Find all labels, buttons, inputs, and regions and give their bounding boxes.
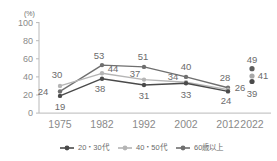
- data-label-20-30-2022: 39: [247, 88, 258, 99]
- y-tick-label-20: 20: [23, 90, 33, 100]
- data-label-60-plus-2022: 49: [247, 54, 258, 65]
- x-tick-label-2002: 2002: [174, 118, 198, 130]
- data-point-60-plus-1975: [58, 89, 62, 93]
- data-label-20-30-1992: 31: [139, 90, 150, 101]
- data-point-20-30-1982: [100, 77, 104, 81]
- data-label-60-plus-2002: 40: [181, 61, 192, 72]
- data-point-20-30-2012: [226, 89, 230, 93]
- data-label-40-50-2022: 41: [258, 70, 269, 81]
- legend-item-60-plus[interactable]: 60歳以上: [176, 142, 224, 152]
- legend-item-40-50[interactable]: 40・50代: [118, 142, 168, 152]
- data-label-40-50-1982: 44: [108, 63, 119, 74]
- data-label-60-plus-2012: 28: [220, 72, 231, 83]
- data-point-40-50-1982: [100, 71, 104, 75]
- x-tick-label-2022: 2022: [240, 118, 264, 130]
- chart-page: (%) 100 80 60 40 20 0 1975 1982 1992 200…: [0, 0, 277, 161]
- data-label-20-30-1982: 38: [95, 83, 106, 94]
- data-label-20-30-2012: 24: [221, 95, 232, 106]
- y-axis-unit-label: (%): [24, 10, 35, 18]
- data-label-60-plus-1982: 53: [94, 50, 105, 61]
- data-point-40-50-1975: [58, 84, 62, 88]
- data-point-20-30-1992: [142, 83, 146, 87]
- y-tick-label-0: 0: [28, 108, 33, 118]
- x-tick-label-1992: 1992: [132, 118, 156, 130]
- legend-marker-40-50: [123, 146, 128, 151]
- data-label-40-50-1992: 37: [130, 68, 141, 79]
- y-tick-label-100: 100: [18, 18, 33, 28]
- legend-item-20-30[interactable]: 20・30代: [60, 142, 110, 152]
- data-label-40-50-2002: 34: [168, 71, 179, 82]
- data-label-20-30-2002: 33: [181, 89, 192, 100]
- legend-marker-20-30: [65, 146, 70, 151]
- data-point-60-plus-2022: [249, 66, 254, 71]
- data-point-60-plus-1992: [142, 65, 146, 69]
- x-tick-label-2012: 2012: [216, 118, 240, 130]
- data-point-20-30-2022: [249, 79, 254, 84]
- y-tick-label-80: 80: [23, 36, 33, 46]
- legend-label-20-30: 20・30代: [78, 142, 110, 152]
- data-point-20-30-1975: [58, 94, 62, 98]
- x-tick-label-1982: 1982: [90, 118, 114, 130]
- chart-legend: 20・30代 40・50代 60歳以上: [60, 142, 224, 152]
- data-label-40-50-2012: 26: [235, 82, 246, 93]
- data-point-40-50-1992: [142, 77, 146, 81]
- data-point-60-plus-2002: [184, 75, 188, 79]
- data-point-60-plus-1982: [100, 63, 104, 67]
- data-label-20-30-1975: 19: [55, 101, 66, 112]
- legend-marker-60-plus: [181, 146, 186, 151]
- legend-label-40-50: 40・50代: [136, 142, 168, 152]
- x-tick-label-1975: 1975: [48, 118, 72, 130]
- data-point-40-50-2022: [249, 73, 254, 78]
- data-point-20-30-2002: [184, 81, 188, 85]
- y-tick-label-60: 60: [23, 54, 33, 64]
- y-tick-label-40: 40: [23, 72, 33, 82]
- data-label-60-plus-1975: 24: [38, 86, 49, 97]
- line-chart: (%) 100 80 60 40 20 0 1975 1982 1992 200…: [0, 0, 277, 161]
- data-label-40-50-1975: 30: [52, 69, 63, 80]
- legend-label-60-plus: 60歳以上: [194, 142, 224, 152]
- data-label-60-plus-1992: 51: [138, 51, 149, 62]
